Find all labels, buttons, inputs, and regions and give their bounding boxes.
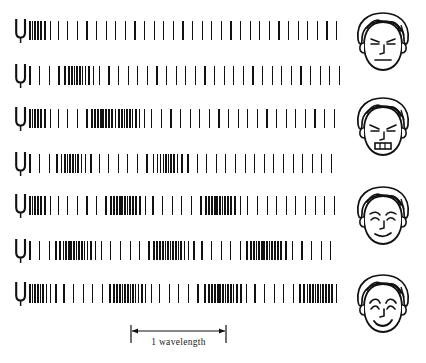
sound-wave-diagram: 1 wavelength [0, 0, 426, 363]
scale-bar-label: 1 wavelength [151, 337, 206, 347]
